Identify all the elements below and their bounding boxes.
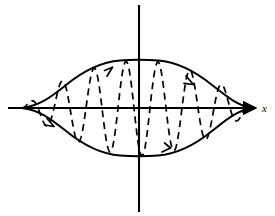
axes-group: x	[8, 5, 267, 212]
direction-arrow-upper-left-icon	[105, 67, 113, 76]
x-axis-label: x	[261, 102, 267, 114]
direction-arrow-upper-right-icon	[184, 76, 194, 85]
figure-container: x	[0, 0, 275, 216]
envelope-direction-arrows	[45, 67, 194, 152]
plot-canvas: x	[0, 0, 275, 216]
upper-envelope-curve	[22, 60, 252, 108]
direction-arrow-lower-right-icon	[162, 143, 171, 152]
